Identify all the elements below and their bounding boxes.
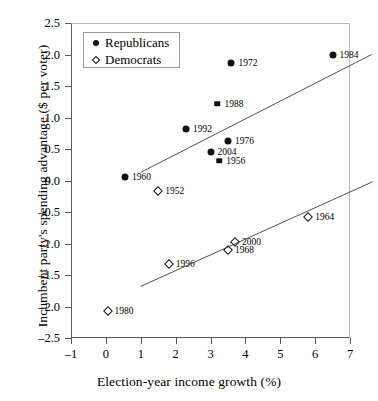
y-tick-label: –2.0 [26,301,60,313]
filled-circle-icon [89,40,103,46]
data-point-label: 1956 [226,156,245,166]
x-tick-label: 7 [338,348,362,360]
x-tick-mark [71,338,72,344]
data-point-marker [216,158,222,164]
y-tick-mark [65,212,71,213]
data-point-marker [183,125,190,132]
data-point-label: 1968 [235,245,254,255]
x-tick-mark [280,338,281,344]
y-tick-label: –1.0 [26,238,60,250]
data-point-label: 1992 [193,124,212,134]
x-tick-mark [141,338,142,344]
y-tick-label: 1.5 [26,80,60,92]
data-point-marker [224,138,231,145]
data-point-label: 1976 [235,136,254,146]
y-tick-mark [65,149,71,150]
x-tick-label: 1 [129,348,153,360]
data-point-label: 1988 [224,99,243,109]
legend-item-democrats: Democrats [89,51,161,68]
x-tick-label: 5 [268,348,292,360]
legend-label-republicans: Republicans [103,36,169,50]
x-tick-mark [106,338,107,344]
y-tick-mark [65,275,71,276]
legend-item-republicans: Republicans [89,34,169,51]
y-tick-label: 2.5 [26,17,60,29]
open-diamond-icon [89,57,103,63]
y-tick-label: 0.5 [26,143,60,155]
data-point-marker [207,149,214,156]
y-tick-label: 1.0 [26,112,60,124]
y-tick-mark [65,86,71,87]
data-point-label: 1972 [238,58,257,68]
x-tick-label: 0 [94,348,118,360]
data-point-marker [329,51,336,58]
legend: Republicans Democrats [83,32,180,68]
x-tick-mark [176,338,177,344]
data-point-marker [228,59,235,66]
y-tick-label: 2.0 [26,49,60,61]
x-tick-mark [211,338,212,344]
plot-area [71,23,350,338]
x-tick-label: 2 [164,348,188,360]
y-tick-mark [65,181,71,182]
x-axis-title: Election-year income growth (%) [0,374,378,390]
x-tick-label: –1 [59,348,83,360]
x-tick-label: 3 [199,348,223,360]
y-tick-label: –1.5 [26,269,60,281]
legend-label-democrats: Democrats [103,53,161,67]
y-tick-mark [65,23,71,24]
y-tick-label: 0.0 [26,175,60,187]
data-point-marker [122,174,129,181]
y-tick-label: –0.5 [26,206,60,218]
data-point-label: 1980 [115,306,134,316]
x-tick-mark [315,338,316,344]
y-tick-label: –2.5 [26,332,60,344]
scatter-plot-figure: Incumbent party's spending advantage ($ … [0,0,378,401]
data-point-label: 1960 [132,172,151,182]
data-point-label: 1964 [315,212,334,222]
x-tick-mark [245,338,246,344]
data-point-marker [215,101,221,107]
data-point-label: 1996 [176,259,195,269]
x-tick-label: 6 [303,348,327,360]
y-tick-mark [65,55,71,56]
x-tick-mark [350,338,351,344]
x-tick-label: 4 [233,348,257,360]
y-tick-mark [65,307,71,308]
y-tick-mark [65,118,71,119]
data-point-label: 2000 [242,237,261,247]
data-point-label: 1984 [340,50,359,60]
data-point-label: 1952 [165,186,184,196]
y-tick-mark [65,244,71,245]
